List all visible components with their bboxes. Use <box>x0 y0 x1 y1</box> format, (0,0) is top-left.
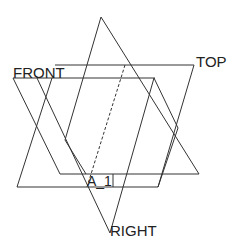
intersection-hexagon[interactable] <box>65 78 178 187</box>
top-label: TOP <box>196 54 227 69</box>
axis-a1-dashed-line[interactable] <box>87 65 125 187</box>
right-plane[interactable] <box>37 17 199 233</box>
axis-a1-label: A_1 <box>87 174 112 188</box>
right-label: RIGHT <box>110 223 157 238</box>
diagram-canvas <box>0 0 240 250</box>
front-label: FRONT <box>13 65 65 80</box>
top-plane[interactable] <box>17 65 194 187</box>
front-plane[interactable] <box>13 78 199 174</box>
